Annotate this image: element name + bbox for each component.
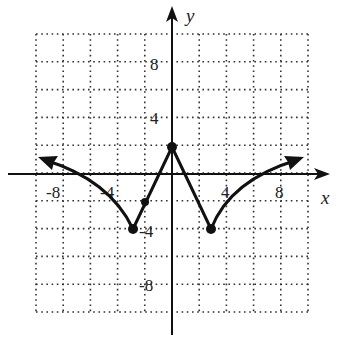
y-tick-label: -8 (139, 276, 153, 295)
x-axis-label: x (320, 187, 330, 208)
axes: x y (8, 5, 330, 335)
point-left-min (128, 224, 138, 234)
y-axis-label: y (184, 5, 195, 26)
y-tick-label: -4 (139, 222, 154, 241)
point-right-min (206, 224, 216, 234)
y-tick-label: 8 (150, 55, 159, 74)
point-peak (167, 142, 177, 152)
left-segment (133, 147, 172, 229)
y-tick-label: 4 (150, 109, 159, 128)
x-tick-label: 8 (275, 183, 284, 202)
right-segment (172, 147, 211, 229)
point-left-mid (141, 198, 149, 206)
function-graph: x y -8 -4 4 8 8 4 -4 -8 (0, 0, 339, 341)
x-tick-label: -8 (46, 183, 60, 202)
